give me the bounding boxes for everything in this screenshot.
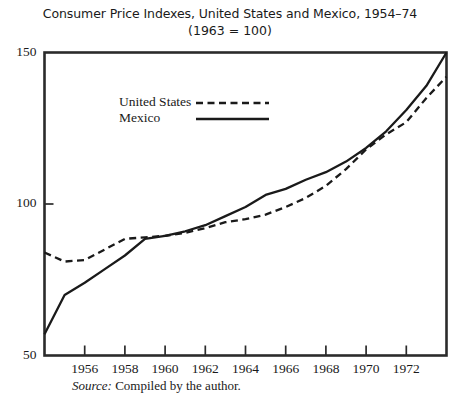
y-axis-label: 150 [0, 44, 37, 60]
source-prefix: Source: [72, 378, 112, 393]
series-line-united-states [45, 77, 447, 262]
legend-label-united-states: United States [119, 94, 191, 110]
chart-figure: Consumer Price Indexes, United States an… [0, 0, 460, 396]
series-line-mexico [45, 53, 447, 335]
x-axis-label: 1972 [381, 361, 431, 377]
legend-label-mexico: Mexico [119, 110, 160, 126]
plot-frame [45, 53, 447, 356]
source-note: Source: Compiled by the author. [72, 378, 241, 394]
source-text: Compiled by the author. [115, 378, 241, 393]
plot-area [0, 0, 460, 396]
y-axis-label: 100 [0, 195, 37, 211]
y-axis-label: 50 [0, 347, 37, 363]
